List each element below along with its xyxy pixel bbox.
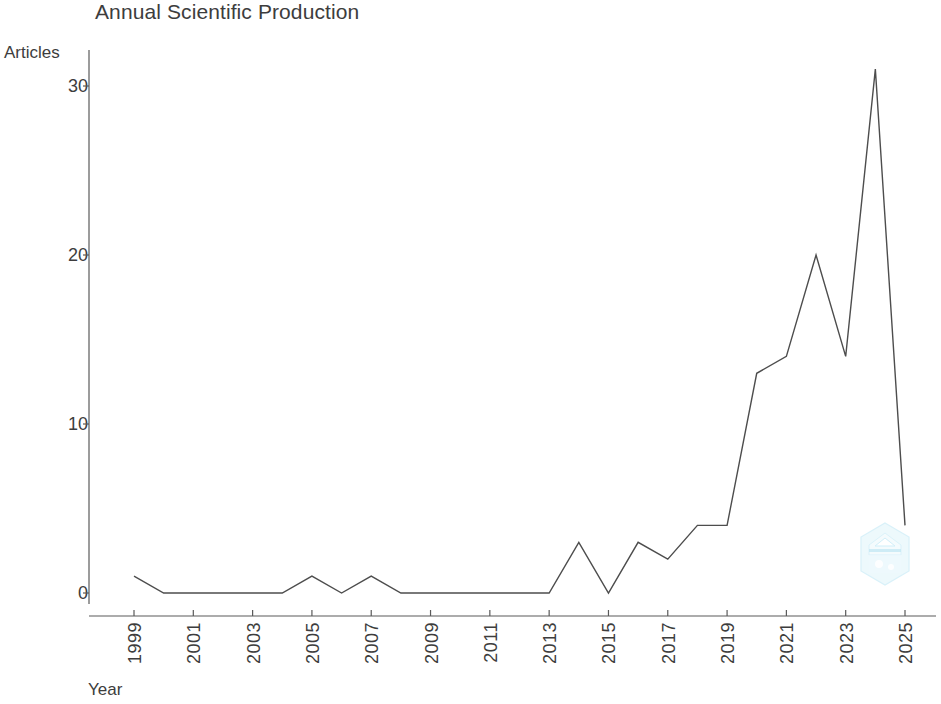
x-tick-marks: [134, 610, 905, 616]
annual-scientific-production-chart: Annual Scientific Production Articles Ye…: [0, 0, 941, 704]
axis-lines: [89, 50, 936, 616]
plot-area: [0, 0, 941, 704]
data-line: [134, 69, 905, 593]
y-tick-marks: [83, 86, 89, 593]
